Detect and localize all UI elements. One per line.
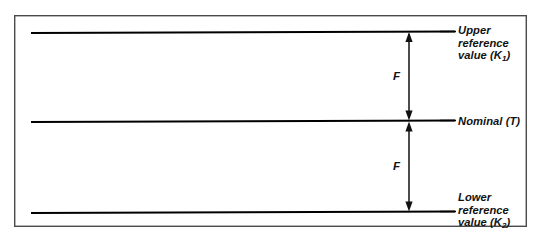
nominal-label-text: Nominal (T): [458, 115, 520, 127]
tolerance-diagram: Upperreferencevalue (K1) Nominal (T) Low…: [0, 0, 539, 243]
lower-dimension-label: F: [393, 160, 400, 172]
upper-reference-label: Upperreferencevalue (K1): [458, 24, 510, 62]
lower-reference-label-line3-prefix: value (K: [458, 216, 502, 228]
upper-reference-label-line3-suffix: ): [506, 49, 510, 61]
upper-reference-label-line2: reference: [458, 37, 509, 49]
lower-reference-label-subscript: 2: [502, 221, 507, 230]
lower-reference-label-line3-suffix: ): [506, 216, 510, 228]
upper-reference-label-line3-prefix: value (K: [458, 49, 502, 61]
upper-reference-label-line1: Upper: [458, 24, 491, 36]
lower-reference-line: [31, 212, 455, 214]
lower-reference-label-line1: Lower: [458, 191, 491, 203]
nominal-line: [31, 121, 455, 123]
upper-reference-label-subscript: 1: [502, 54, 507, 63]
nominal-label: Nominal (T): [458, 115, 520, 128]
lower-reference-label-line2: reference: [458, 204, 509, 216]
upper-reference-line: [31, 32, 455, 34]
lower-reference-label: Lowerreferencevalue (K2): [458, 191, 510, 229]
upper-dimension-label: F: [393, 70, 400, 82]
